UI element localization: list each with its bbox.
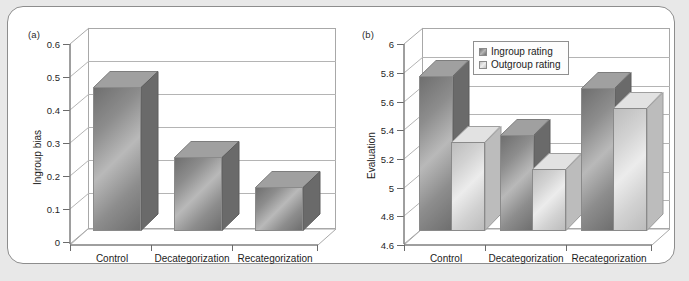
panel-b-bar-control-outgroup-front [451, 142, 485, 231]
panel-b-bar-recategorization-ingroup-front [581, 88, 615, 231]
legend-item-outgroup: Outgroup rating [479, 58, 561, 71]
panel-a-bar-decategorization [174, 141, 222, 231]
figure-frame: (a) Ingroup bias 0.6 0.5 0.4 0.3 0.2 0.1… [7, 6, 675, 264]
panel-b-ytick-0: 6 [368, 39, 394, 50]
panel-a-bar-recategorization [255, 171, 303, 231]
panel-b-xlabel-control: Control [405, 253, 487, 264]
panel-a-xlabel-control: Control [71, 253, 153, 264]
panel-b-bar-decategorization-ingroup-front [500, 135, 534, 231]
panel-b-bar-control-ingroup [419, 60, 453, 231]
panel-b-ytick-2: 5.6 [368, 97, 394, 108]
panel-a-ytick-0: 0.6 [34, 39, 60, 50]
panel-a-xtick-2 [232, 245, 233, 251]
panel-b-xlabel-recategorization: Recategorization [566, 253, 652, 264]
panel-b-xtick-2 [566, 245, 567, 251]
panel-a-ytick-2: 0.4 [34, 105, 60, 116]
panel-b-floor [403, 228, 673, 250]
panel-b-ytick-7: 4.6 [368, 240, 394, 251]
panel-a-ytick-5: 0.1 [34, 204, 60, 215]
panel-b-bar-recategorization-outgroup-front [613, 108, 647, 231]
panel-b-bar-decategorization-ingroup [500, 119, 534, 231]
panel-b-ytick-1: 5.8 [368, 68, 394, 79]
panel-a-xtick-0 [70, 245, 71, 251]
panel-a-floor [69, 228, 339, 250]
panel-b-xtick-3 [651, 245, 652, 251]
panel-b-ytick-5: 5 [368, 183, 394, 194]
panel-a-xlabel-decategorization: Decategorization [150, 253, 234, 264]
panel-b-bar-recategorization-outgroup-side [646, 92, 664, 231]
panel-b-legend: Ingroup rating Outgroup rating [473, 41, 569, 75]
panel-a-bar-control-side [140, 71, 159, 231]
panel-a-xtick-1 [151, 245, 152, 251]
panel-a-ytick-4: 0.2 [34, 171, 60, 182]
panel-a-bar-recategorization-front [255, 187, 303, 231]
panel-b-ytick-3: 5.4 [368, 125, 394, 136]
panel-a-bar-recategorization-side [302, 171, 321, 231]
panel-a-ytick-1: 0.5 [34, 72, 60, 83]
panel-b-bar-control-ingroup-front [419, 76, 453, 231]
panel-a-ytick-3: 0.3 [34, 138, 60, 149]
panel-b-bar-control-outgroup [451, 126, 485, 231]
dark-gray-swatch-icon [479, 48, 487, 56]
panel-a-bar-decategorization-front [174, 157, 222, 231]
legend-label-ingroup: Ingroup rating [491, 46, 553, 57]
panel-b-bar-decategorization-outgroup [532, 153, 566, 231]
chart-panel-a: (a) Ingroup bias 0.6 0.5 0.4 0.3 0.2 0.1… [8, 7, 348, 265]
panel-b-bar-decategorization-outgroup-front [532, 169, 566, 231]
panel-a-bar-control [93, 71, 141, 231]
light-gray-swatch-icon [479, 61, 487, 69]
legend-label-outgroup: Outgroup rating [491, 59, 561, 70]
panel-b-xtick-1 [485, 245, 486, 251]
panel-a-xlabel-recategorization: Recategorization [232, 253, 318, 264]
chart-panel-b: (b) Evaluation 6 5.8 5.6 5.4 5.2 5 4.8 4… [346, 7, 676, 265]
panel-a-xtick-3 [317, 245, 318, 251]
panel-b-xlabel-decategorization: Decategorization [484, 253, 568, 264]
panel-b-bar-recategorization-ingroup [581, 72, 615, 231]
panel-b-xtick-0 [404, 245, 405, 251]
panel-b-ytick-4: 5.2 [368, 154, 394, 165]
panel-a-bar-decategorization-side [221, 141, 240, 231]
panel-b-bar-recategorization-outgroup [613, 92, 647, 231]
panel-a-bar-control-front [93, 87, 141, 231]
panel-a-ytick-6: 0 [34, 237, 60, 248]
legend-item-ingroup: Ingroup rating [479, 45, 561, 58]
panel-b-ytick-6: 4.8 [368, 211, 394, 222]
panel-a-gridline-0.5 [88, 61, 336, 62]
